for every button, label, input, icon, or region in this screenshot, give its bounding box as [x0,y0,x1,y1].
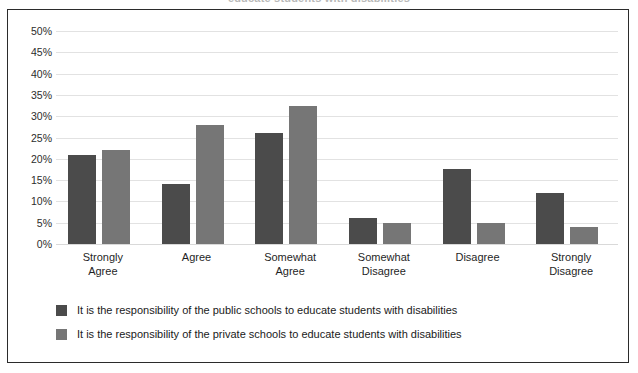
y-tick-label: 15% [8,175,52,186]
bar[interactable] [570,227,598,244]
bar-group [431,31,525,244]
y-tick-label: 5% [8,217,52,228]
y-tick-label: 50% [8,26,52,37]
y-tick-label: 30% [8,111,52,122]
bar[interactable] [349,218,377,244]
bar[interactable] [102,150,130,244]
chart-title: educate students with disabilities [0,0,638,3]
y-tick-label: 25% [8,132,52,143]
y-tick-label: 20% [8,153,52,164]
chart-frame: 50%45%40%35%30%25%20%15%10%5%0% Strongly… [7,9,629,363]
bars-layer [56,31,618,244]
legend-item[interactable]: It is the responsibility of the private … [56,322,616,346]
bar[interactable] [383,223,411,244]
y-tick-label: 0% [8,239,52,250]
bar[interactable] [477,223,505,244]
legend-label: It is the responsibility of the private … [77,328,462,340]
y-tick-label: 45% [8,47,52,58]
chart-legend: It is the responsibility of the public s… [56,298,616,346]
bar-group [337,31,431,244]
bar[interactable] [68,155,96,244]
bar-group [524,31,618,244]
y-tick-label: 40% [8,68,52,79]
x-tick-label-line: Agree [48,264,158,278]
y-tick-label: 35% [8,89,52,100]
bar-group [150,31,244,244]
legend-swatch-icon [56,305,67,316]
legend-item[interactable]: It is the responsibility of the public s… [56,298,616,322]
bar-group [56,31,150,244]
x-tick-label-line: Disagree [516,264,626,278]
y-axis: 50%45%40%35%30%25%20%15%10%5%0% [8,31,52,244]
legend-swatch-icon [56,329,67,340]
x-axis: StronglyAgreeAgreeSomewhatAgreeSomewhatD… [56,250,618,286]
bar[interactable] [162,184,190,244]
bar[interactable] [443,169,471,244]
legend-label: It is the responsibility of the public s… [77,304,457,316]
bar[interactable] [196,125,224,244]
bar-group [243,31,337,244]
x-tick-label: StronglyDisagree [516,250,626,278]
bar[interactable] [289,106,317,244]
bar[interactable] [255,133,283,244]
x-tick-label-line: Disagree [329,264,439,278]
gridline-0% [56,244,618,245]
y-tick-label: 10% [8,196,52,207]
bar[interactable] [536,193,564,244]
x-tick-label-line: Strongly [516,250,626,264]
